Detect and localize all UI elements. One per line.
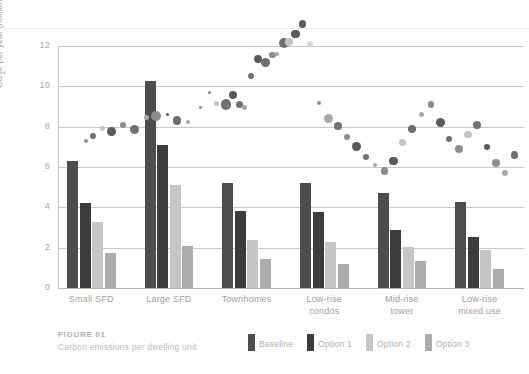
x-axis-label-1: Large SFD (129, 294, 209, 306)
scatter-bubble (248, 73, 254, 79)
figure-caption-subtitle: Carbon emissions per dwelling unit (58, 342, 248, 352)
scatter-bubble (186, 120, 190, 124)
legend-swatch-icon (307, 334, 314, 351)
x-axis-label-2: Townhomes (207, 294, 287, 306)
y-tick-label-10: 10 (0, 80, 50, 90)
y-tick-label-0: 0 (0, 282, 50, 292)
scatter-bubble (261, 58, 270, 67)
scatter-bubble (436, 118, 445, 127)
scatter-bubble (107, 127, 116, 136)
bar (92, 222, 103, 288)
scatter-bubble (389, 157, 397, 165)
scatter-bubble (221, 99, 231, 109)
y-tick-label-4: 4 (0, 201, 50, 211)
gridline-2 (58, 248, 524, 249)
scatter-bubble (428, 101, 434, 107)
bar (480, 250, 491, 288)
scatter-bubble (419, 112, 424, 117)
scatter-bubble (291, 30, 300, 39)
y-tick-label-2: 2 (0, 242, 50, 252)
legend-item-option-2[interactable]: Option 2 (366, 334, 411, 351)
scatter-bubble (408, 125, 416, 133)
scatter-bubble (214, 101, 219, 106)
legend-swatch-icon (366, 334, 373, 351)
bar (415, 261, 426, 288)
scatter-bubble (166, 113, 169, 116)
scatter-bubble (317, 101, 321, 105)
plot-area (58, 46, 524, 288)
legend-item-option-1[interactable]: Option 1 (307, 334, 352, 351)
scatter-bubble (173, 116, 181, 124)
legend-swatch-icon (248, 334, 255, 351)
gridline-12 (58, 46, 524, 47)
scatter-bubble (381, 167, 388, 174)
bar (455, 202, 466, 288)
gridline-6 (58, 167, 524, 168)
legend-label: Option 1 (318, 339, 352, 351)
bar (403, 247, 414, 288)
bar (157, 145, 168, 288)
scatter-bubble (373, 163, 377, 167)
x-axis-label-5: Low-risemixed use (440, 294, 520, 317)
chart-legend: BaselineOption 1Option 2Option 3 (248, 334, 483, 351)
x-axis-label-0: Small SFD (51, 294, 131, 306)
scatter-bubble (199, 106, 202, 109)
scatter-bubble (208, 91, 211, 94)
scatter-bubble (324, 114, 333, 123)
bar (67, 161, 78, 288)
scatter-bubble (275, 52, 279, 56)
scatter-bubble (151, 111, 161, 121)
legend-item-option-3[interactable]: Option 3 (425, 334, 470, 351)
bar (468, 237, 479, 288)
y-tick-label-12: 12 (0, 40, 50, 50)
scatter-bubble (242, 105, 246, 109)
scatter-bubble (502, 170, 508, 176)
bar (222, 183, 233, 288)
scatter-bubble (229, 91, 237, 99)
x-axis-label-3: Low-risecondos (284, 294, 364, 317)
legend-label: Option 2 (377, 339, 411, 351)
scatter-bubble (446, 136, 452, 142)
scatter-bubble (307, 41, 313, 47)
bar (80, 203, 91, 288)
scatter-bubble (399, 139, 406, 146)
scatter-bubble (464, 131, 471, 138)
x-axis-label-4: Mid-risetower (362, 294, 442, 317)
bar (235, 211, 246, 288)
bar (260, 259, 271, 288)
bar (338, 264, 349, 288)
legend-label: Option 3 (436, 339, 470, 351)
scatter-bubble (285, 38, 293, 46)
scatter-bubble (144, 115, 148, 119)
y-tick-label-8: 8 (0, 121, 50, 131)
scatter-bubble (352, 142, 361, 151)
scatter-bubble (344, 134, 350, 140)
figure-container: CO2e per year (million tonnes) 024681012… (0, 0, 529, 374)
figure-caption-title: FIGURE 01 (58, 330, 248, 339)
gridline-4 (58, 207, 524, 208)
bar (325, 242, 336, 288)
bar (313, 212, 324, 288)
legend-label: Baseline (259, 339, 293, 351)
bar (105, 253, 116, 288)
figure-caption: FIGURE 01 Carbon emissions per dwelling … (58, 330, 248, 352)
scatter-bubble (484, 144, 490, 150)
bar (170, 185, 181, 288)
scatter-bubble (299, 20, 307, 28)
bar (493, 269, 504, 288)
top-divider (0, 28, 529, 29)
bar (247, 240, 258, 288)
bar (182, 246, 193, 288)
gridline-10 (58, 86, 524, 87)
scatter-bubble (334, 122, 342, 130)
scatter-bubble (84, 139, 88, 143)
scatter-bubble (511, 151, 519, 159)
scatter-bubble (130, 125, 139, 134)
legend-item-baseline[interactable]: Baseline (248, 334, 293, 351)
bar (390, 230, 401, 288)
bar (378, 193, 389, 288)
bar (300, 183, 311, 288)
gridline-0 (58, 288, 524, 289)
scatter-bubble (90, 133, 96, 139)
scatter-bubble (363, 154, 369, 160)
